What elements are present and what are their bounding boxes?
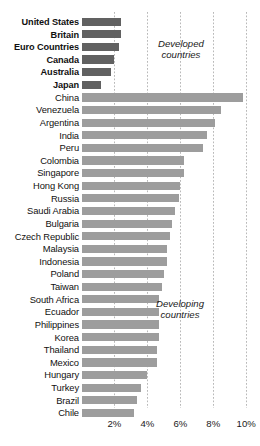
bar-chart: United StatesBritainEuro CountriesCanada… [0, 0, 260, 446]
bar-label: Saudi Arabia [0, 205, 79, 218]
bar-label: Britain [0, 29, 79, 42]
bar-label: Euro Countries [0, 41, 79, 54]
x-axis: 2%4%6%8%10% [0, 412, 260, 436]
bar [82, 396, 138, 404]
bar-row: Taiwan [0, 281, 260, 294]
bar-label: Malaysia [0, 243, 79, 256]
x-tick-label: 2% [108, 418, 122, 430]
bar-label: Taiwan [0, 281, 79, 294]
bar-label: Czech Republic [0, 231, 79, 244]
bar-label: Thailand [0, 344, 79, 357]
bar-label: Venezuela [0, 104, 79, 117]
bar-row: Venezuela [0, 104, 260, 117]
bar-label: India [0, 130, 79, 143]
bar [82, 30, 122, 38]
annotation-line-1: Developed [158, 38, 204, 49]
bar [82, 182, 181, 190]
bar [82, 156, 184, 164]
bar-row: Argentina [0, 117, 260, 130]
bar-row: Korea [0, 332, 260, 345]
bar-row: Mexico [0, 357, 260, 370]
annotation-line-2: countries [158, 49, 204, 60]
bar-label: Hungary [0, 369, 79, 382]
bar-label: Singapore [0, 167, 79, 180]
bar [82, 283, 163, 291]
bar [82, 55, 115, 63]
bar [82, 308, 159, 316]
bar-row: Singapore [0, 167, 260, 180]
bar-row: Bulgaria [0, 218, 260, 231]
bar-label: Indonesia [0, 256, 79, 269]
bar-label: Korea [0, 332, 79, 345]
bar-label: Peru [0, 142, 79, 155]
bar [82, 81, 102, 89]
bar-label: South Africa [0, 294, 79, 307]
bar [82, 384, 141, 392]
bar-row: China [0, 92, 260, 105]
annotation-line-1: Developing [156, 298, 204, 309]
bar-row: Australia [0, 66, 260, 79]
bar-row: Czech Republic [0, 231, 260, 244]
bar-label: Turkey [0, 382, 79, 395]
bar-row: Philippines [0, 319, 260, 332]
bar-row: Peru [0, 142, 260, 155]
bar-label: Ecuador [0, 306, 79, 319]
bar-label: Philippines [0, 319, 79, 332]
bar-label: United States [0, 16, 79, 29]
bar [82, 320, 159, 328]
bar-row: Indonesia [0, 256, 260, 269]
bar-row: India [0, 130, 260, 143]
bar [82, 295, 159, 303]
annotation-line-2: countries [156, 309, 204, 320]
bar-row: Britain [0, 29, 260, 42]
bar [82, 169, 184, 177]
bar [82, 257, 168, 265]
bar-label: Hong Kong [0, 180, 79, 193]
x-tick-label: 4% [140, 418, 154, 430]
bar [82, 232, 171, 240]
bar [82, 245, 168, 253]
bar-label: Russia [0, 193, 79, 206]
bar-row: Malaysia [0, 243, 260, 256]
annotation-developing-countries: Developing countries [156, 298, 204, 321]
bar [82, 144, 204, 152]
bar-label: Bulgaria [0, 218, 79, 231]
bar [82, 207, 176, 215]
bar-row: Euro Countries [0, 41, 260, 54]
bar-row: Brazil [0, 395, 260, 408]
bar [82, 371, 148, 379]
bar-row: Thailand [0, 344, 260, 357]
bar [82, 358, 158, 366]
bar [82, 43, 120, 51]
bar [82, 220, 173, 228]
bar-row: Japan [0, 79, 260, 92]
bar [82, 333, 159, 341]
bar-label: Colombia [0, 155, 79, 168]
x-tick-label: 6% [173, 418, 187, 430]
x-tick-label: 8% [206, 418, 220, 430]
bar-row: Saudi Arabia [0, 205, 260, 218]
plot-area: United StatesBritainEuro CountriesCanada… [0, 0, 260, 412]
bar-row: Colombia [0, 155, 260, 168]
bar [82, 106, 222, 114]
bar [82, 93, 243, 101]
bar-label: Poland [0, 268, 79, 281]
bar [82, 68, 112, 76]
bar-label: China [0, 92, 79, 105]
bar-row: United States [0, 16, 260, 29]
bar-label: Mexico [0, 357, 79, 370]
bar-row: Turkey [0, 382, 260, 395]
bar [82, 270, 164, 278]
bar-label: Australia [0, 66, 79, 79]
bar-row: Canada [0, 54, 260, 67]
bar-row: Poland [0, 268, 260, 281]
bar-row: Hong Kong [0, 180, 260, 193]
bar-label: Japan [0, 79, 79, 92]
bar [82, 18, 122, 26]
bar-row: Ecuador [0, 306, 260, 319]
bar-row: Russia [0, 193, 260, 206]
bar-label: Brazil [0, 395, 79, 408]
bar-row: South Africa [0, 294, 260, 307]
bar [82, 346, 158, 354]
bar-row: Hungary [0, 369, 260, 382]
